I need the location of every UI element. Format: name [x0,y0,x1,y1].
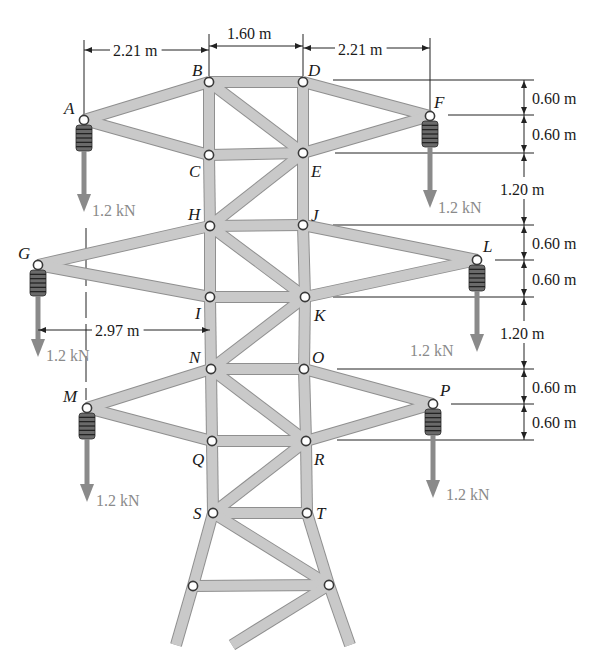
load-label: 1.2 kN [92,202,136,219]
load-label: 1.2 kN [438,199,482,216]
lower-member-3 [193,585,329,586]
node-label-p: P [439,381,450,400]
node-label-a: A [63,99,75,118]
member-mq [87,408,212,441]
node-label-t: T [316,504,327,523]
pin-joint-o [299,364,308,373]
member-df [303,82,430,116]
member-ko [304,297,305,369]
member-ce [209,153,303,155]
pin-joint-t [302,508,311,517]
member-ef [303,116,430,153]
load-f: 1.2 kN [422,121,482,216]
member-ac [84,120,209,155]
member-rp [306,404,433,441]
member-be [209,82,303,153]
lower-member-5 [329,585,350,645]
load-a: 1.2 kN [76,125,136,219]
load-label: 1.2 kN [446,486,490,503]
node-label-f: F [433,93,445,112]
dimension-vertical-7: 0.60 m [521,404,577,440]
down-arrow-icon [426,480,440,498]
member-eh [210,153,303,226]
dimension-vertical-3: 0.60 m [521,225,577,260]
node-label-l: L [482,237,492,256]
down-arrow-icon [80,484,94,502]
pin-joint-s [208,508,217,517]
load-label: 1.2 kN [46,347,90,364]
load-label: 1.2 kN [96,492,140,509]
dimension-horizontal-0: 2.21 m [84,42,209,59]
member-ch [209,155,210,226]
truss-diagram: 1.2 kN1.2 kN1.2 kN1.2 kN1.2 kN1.2 kN ABC… [0,0,610,660]
member-mn [87,369,211,408]
pin-joint-g [33,260,42,269]
down-arrow-icon [77,194,91,212]
pin-joint-q [207,436,216,445]
member-or [304,369,306,441]
dimension-label: 1.20 m [500,181,545,198]
node-label-i: I [194,304,202,323]
member-jl [303,225,477,260]
pin-joint-unlabeled [188,581,197,590]
load-g: 1.2 kN [30,270,90,364]
node-label-k: K [313,306,327,325]
dimension-horizontal-1: 1.60 m [209,25,303,49]
dimension-label: 0.60 m [532,271,577,288]
dimension-label: 2.97 m [95,322,140,339]
dimension-vertical-5: 1.20 m [500,297,545,369]
pin-joint-k [300,292,309,301]
dimension-label: 1.60 m [227,25,272,42]
pin-joint-h [205,221,214,230]
member-hk [210,226,305,297]
member-rs [213,441,306,513]
node-label-m: M [62,387,78,406]
pin-joint-n [206,364,215,373]
member-gh [38,226,210,265]
load-m: 1.2 kN [79,413,140,509]
pin-joint-d [298,77,307,86]
dimension-label: 1.20 m [500,325,545,342]
pin-joint-i [205,292,214,301]
pin-joint-b [204,77,213,86]
member-nq [211,369,212,441]
truss-member-outlines [38,82,477,645]
dimension-horizontal-2: 2.21 m [303,41,430,58]
dimension-vertical-0: 0.60 m [521,80,577,115]
pin-joint-l [472,255,481,264]
dimension-vertical-4: 0.60 m [521,260,577,297]
node-label-c: C [189,162,201,181]
node-label-o: O [312,348,324,367]
member-qs [212,441,213,513]
node-label-d: D [307,61,321,80]
node-label-n: N [188,348,202,367]
dimension-vertical-6: 0.60 m [521,369,577,404]
member-in [210,297,211,369]
lower-member-6 [232,585,329,645]
node-label-e: E [310,162,322,181]
member-jk [303,225,305,297]
load-p: 1.2 kN [425,409,490,503]
dimension-vertical-1: 0.60 m [521,115,577,153]
member-rt [306,441,307,513]
member-hj [210,225,303,226]
down-arrow-icon [31,339,45,357]
pin-joint-m [82,403,91,412]
dimension-label: 2.21 m [338,41,383,58]
member-ab [84,82,209,120]
down-arrow-icon [423,190,437,208]
dimension-horizontal-3: 2.97 m [38,322,210,339]
load-label: 1.2 kN [410,342,454,359]
node-label-r: R [313,450,325,469]
down-arrow-icon [470,334,484,352]
dimension-label: 0.60 m [532,90,577,107]
node-label-q: Q [192,450,204,469]
dimension-vertical-2: 1.20 m [500,153,545,225]
pin-joint-c [204,150,213,159]
pin-joint-r [301,436,310,445]
pin-joint-f [425,111,434,120]
dimension-label: 0.60 m [532,379,577,396]
node-label-g: G [18,244,30,263]
pin-joint-a [79,115,88,124]
pin-joint-p [428,399,437,408]
